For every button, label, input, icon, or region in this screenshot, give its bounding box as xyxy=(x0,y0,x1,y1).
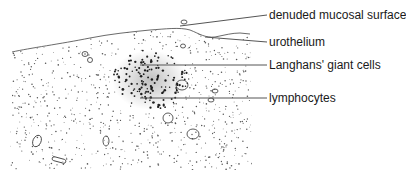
tissue-section xyxy=(9,20,252,171)
label-denuded: denuded mucosal surface xyxy=(269,8,406,22)
label-langhans: Langhans' giant cells xyxy=(269,58,381,72)
leader-line-urothelium xyxy=(205,37,267,42)
leader-line-denuded xyxy=(180,15,267,26)
label-lymphocytes: lymphocytes xyxy=(269,91,336,105)
label-urothelium: urothelium xyxy=(269,35,325,49)
